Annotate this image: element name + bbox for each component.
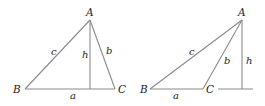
altitude-label-h: h (246, 55, 252, 66)
side-c (25, 20, 90, 89)
side-b (203, 20, 242, 89)
vertex-label-c: C (206, 83, 214, 95)
vertex-label-a: A (85, 6, 94, 18)
vertex-label-a: A (237, 6, 246, 18)
vertex-label-b: B (139, 83, 148, 95)
side-label-a: a (173, 90, 179, 101)
side-label-c: c (51, 46, 57, 57)
vertex-label-c: C (118, 83, 126, 95)
side-label-c: c (189, 46, 195, 57)
acute-triangle: A B C a b c h (12, 6, 126, 101)
triangle-altitude-diagram: A B C a b c h A B C a b c h (0, 0, 265, 106)
obtuse-triangle: A B C a b c h (139, 6, 253, 101)
side-label-b: b (106, 45, 112, 56)
altitude-label-h: h (82, 49, 88, 60)
vertex-label-b: B (12, 83, 21, 95)
side-label-a: a (70, 90, 76, 101)
side-label-b: b (224, 55, 230, 66)
